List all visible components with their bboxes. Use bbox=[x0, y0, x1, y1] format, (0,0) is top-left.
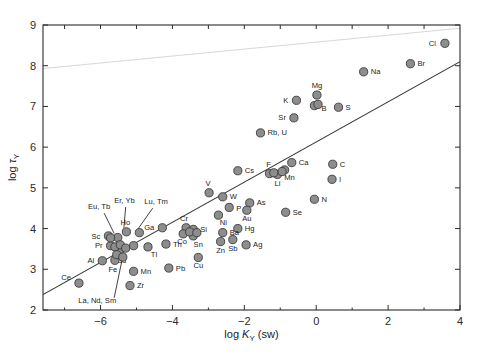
data-point[interactable] bbox=[106, 234, 114, 242]
data-point-marker[interactable] bbox=[270, 169, 278, 177]
data-point-marker[interactable] bbox=[219, 193, 227, 201]
data-point[interactable]: Ag bbox=[242, 240, 262, 249]
data-point-label: W bbox=[230, 192, 238, 201]
data-point[interactable]: Br bbox=[406, 59, 425, 68]
data-point-marker[interactable] bbox=[313, 91, 321, 99]
data-point-label: Li bbox=[274, 179, 280, 188]
data-point-marker[interactable] bbox=[219, 229, 227, 237]
data-point[interactable]: Au bbox=[242, 206, 251, 223]
data-point-marker[interactable] bbox=[278, 167, 286, 175]
data-point-marker[interactable] bbox=[122, 228, 130, 236]
data-point-marker[interactable] bbox=[98, 257, 106, 265]
data-point[interactable]: Sr bbox=[278, 113, 298, 122]
data-point-marker[interactable] bbox=[290, 114, 298, 122]
data-point-marker[interactable] bbox=[194, 253, 202, 261]
data-point-marker[interactable] bbox=[329, 160, 337, 168]
data-point-label: Au bbox=[242, 214, 251, 223]
data-point[interactable]: N bbox=[310, 195, 327, 204]
data-point-label: Mg bbox=[312, 81, 323, 90]
data-point[interactable]: V bbox=[205, 179, 213, 197]
data-point-marker[interactable] bbox=[216, 238, 224, 246]
data-point-marker[interactable] bbox=[75, 279, 83, 287]
data-point-marker[interactable] bbox=[229, 235, 237, 243]
data-point-label: Cl bbox=[429, 39, 436, 48]
figure-container: −6−4−202423456789Eu, TbEr, YbLu, TmLa, N… bbox=[0, 0, 478, 358]
data-point-marker[interactable] bbox=[225, 203, 233, 211]
data-point[interactable]: Ho bbox=[121, 218, 131, 236]
data-point[interactable]: Th bbox=[162, 240, 182, 249]
data-point-marker[interactable] bbox=[106, 234, 114, 242]
data-point-marker[interactable] bbox=[334, 103, 342, 111]
data-point-marker[interactable] bbox=[282, 208, 290, 216]
data-point[interactable] bbox=[314, 100, 322, 108]
data-point[interactable]: Mn bbox=[129, 267, 151, 276]
data-point-marker[interactable] bbox=[243, 206, 251, 214]
data-point-marker[interactable] bbox=[122, 244, 130, 252]
data-point[interactable]: Cs bbox=[234, 166, 255, 175]
data-point[interactable]: Cl bbox=[429, 39, 449, 48]
data-point[interactable]: Ni bbox=[214, 211, 227, 227]
data-point[interactable]: W bbox=[219, 192, 238, 201]
data-point-marker[interactable] bbox=[292, 96, 300, 104]
y-axis-title: log τY bbox=[6, 153, 21, 181]
data-point[interactable]: Zr bbox=[126, 281, 145, 290]
data-point[interactable]: I bbox=[328, 175, 341, 184]
data-point-marker[interactable] bbox=[256, 129, 264, 137]
data-point-marker[interactable] bbox=[193, 229, 201, 237]
data-point-marker[interactable] bbox=[205, 189, 213, 197]
data-point[interactable]: S bbox=[334, 103, 350, 112]
data-point[interactable]: Zn bbox=[216, 238, 225, 255]
x-tick-label: −4 bbox=[166, 315, 179, 327]
data-point-label: Ni bbox=[220, 218, 227, 227]
data-point[interactable]: Ba bbox=[219, 228, 240, 237]
data-point[interactable] bbox=[122, 244, 130, 252]
data-point[interactable]: Na bbox=[360, 67, 382, 76]
data-point[interactable] bbox=[193, 229, 201, 237]
data-point-marker[interactable] bbox=[242, 241, 250, 249]
data-point[interactable] bbox=[119, 253, 127, 261]
data-point-marker[interactable] bbox=[288, 159, 296, 167]
data-point-marker[interactable] bbox=[441, 39, 449, 47]
data-point-label: Ga bbox=[144, 223, 155, 232]
x-axis-title: log KY (sw) bbox=[224, 328, 278, 343]
data-point[interactable]: K bbox=[283, 96, 300, 105]
group-label: La, Nd, Sm bbox=[78, 296, 116, 305]
data-point[interactable]: C bbox=[329, 160, 346, 169]
data-point[interactable]: P bbox=[225, 203, 241, 213]
data-point[interactable]: Ca bbox=[288, 158, 310, 167]
data-point[interactable] bbox=[129, 242, 137, 250]
data-point-marker[interactable] bbox=[234, 167, 242, 175]
data-point[interactable]: As bbox=[246, 198, 266, 207]
data-point-marker[interactable] bbox=[314, 100, 322, 108]
data-point-marker[interactable] bbox=[406, 60, 414, 68]
data-point[interactable]: Sb bbox=[228, 235, 237, 252]
data-point-marker[interactable] bbox=[135, 229, 143, 237]
data-point-marker[interactable] bbox=[162, 240, 170, 248]
data-point[interactable] bbox=[278, 167, 286, 175]
data-point-label: Pr bbox=[95, 241, 103, 250]
data-point[interactable]: Tl bbox=[144, 243, 158, 259]
data-point-marker[interactable] bbox=[129, 242, 137, 250]
data-point-marker[interactable] bbox=[129, 267, 137, 275]
data-point[interactable]: Pb bbox=[165, 264, 185, 273]
data-point-marker[interactable] bbox=[328, 175, 336, 183]
data-point-label: I bbox=[339, 175, 341, 184]
data-point-marker[interactable] bbox=[360, 68, 368, 76]
data-point-marker[interactable] bbox=[119, 253, 127, 261]
data-point-marker[interactable] bbox=[158, 224, 166, 232]
group-label: Lu, Tm bbox=[144, 197, 168, 206]
data-point[interactable] bbox=[270, 169, 278, 177]
data-point[interactable]: Se bbox=[282, 208, 302, 217]
data-point-marker[interactable] bbox=[126, 281, 134, 289]
data-point-marker[interactable] bbox=[310, 195, 318, 203]
data-point[interactable]: Cu bbox=[193, 253, 203, 270]
data-point-marker[interactable] bbox=[165, 264, 173, 272]
data-point[interactable]: Ga bbox=[144, 223, 166, 232]
data-point-label: C bbox=[340, 160, 346, 169]
y-tick-label: 8 bbox=[30, 60, 36, 72]
data-point-label: Mn bbox=[141, 267, 152, 276]
data-point[interactable]: Rb, U bbox=[256, 128, 287, 137]
data-point[interactable]: Mg bbox=[312, 81, 323, 99]
data-point[interactable]: Ce bbox=[61, 273, 83, 287]
data-point[interactable] bbox=[135, 229, 143, 237]
